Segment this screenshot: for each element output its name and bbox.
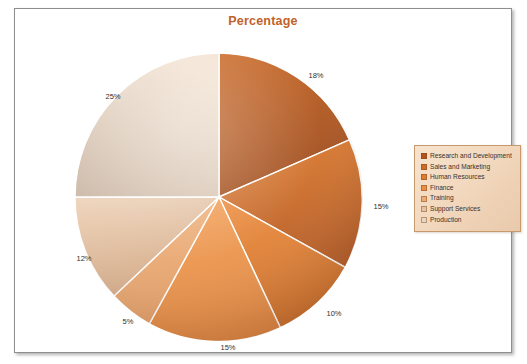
legend-item-sales-and-marketing[interactable]: Sales and Marketing bbox=[421, 164, 515, 171]
legend-label: Human Resources bbox=[430, 174, 485, 181]
legend-swatch-icon bbox=[421, 174, 427, 180]
legend-label: Support Services bbox=[430, 206, 480, 213]
slice-label-training: 5% bbox=[123, 317, 134, 326]
legend: Research and Development Sales and Marke… bbox=[414, 145, 521, 232]
chart-frame: Percentage bbox=[14, 8, 512, 353]
legend-label: Finance bbox=[430, 185, 453, 192]
slice-label-production: 25% bbox=[105, 92, 120, 101]
slice-label-research-and-development: 18% bbox=[308, 71, 323, 80]
legend-swatch-icon bbox=[421, 196, 427, 202]
legend-label: Production bbox=[430, 217, 462, 224]
legend-swatch-icon bbox=[421, 206, 427, 212]
legend-swatch-icon bbox=[421, 153, 427, 159]
page-title: Percentage bbox=[15, 14, 511, 28]
legend-swatch-icon bbox=[421, 185, 427, 191]
pie-chart: 18% 15% 10% 15% 5% 12% 25% bbox=[73, 51, 365, 343]
legend-swatch-icon bbox=[421, 217, 427, 223]
legend-swatch-icon bbox=[421, 164, 427, 170]
legend-item-training[interactable]: Training bbox=[421, 195, 515, 202]
legend-item-research-and-development[interactable]: Research and Development bbox=[421, 153, 515, 160]
legend-label: Research and Development bbox=[430, 153, 512, 160]
legend-item-human-resources[interactable]: Human Resources bbox=[421, 174, 515, 181]
pie-slice-production[interactable] bbox=[75, 53, 219, 197]
slice-label-sales-and-marketing: 15% bbox=[373, 202, 388, 211]
slice-label-support-services: 12% bbox=[76, 254, 91, 263]
legend-item-support-services[interactable]: Support Services bbox=[421, 206, 515, 213]
legend-label: Training bbox=[430, 195, 454, 202]
slice-label-finance: 15% bbox=[220, 343, 235, 352]
legend-label: Sales and Marketing bbox=[430, 164, 490, 171]
slice-label-human-resources: 10% bbox=[326, 309, 341, 318]
legend-item-finance[interactable]: Finance bbox=[421, 185, 515, 192]
legend-item-production[interactable]: Production bbox=[421, 217, 515, 224]
